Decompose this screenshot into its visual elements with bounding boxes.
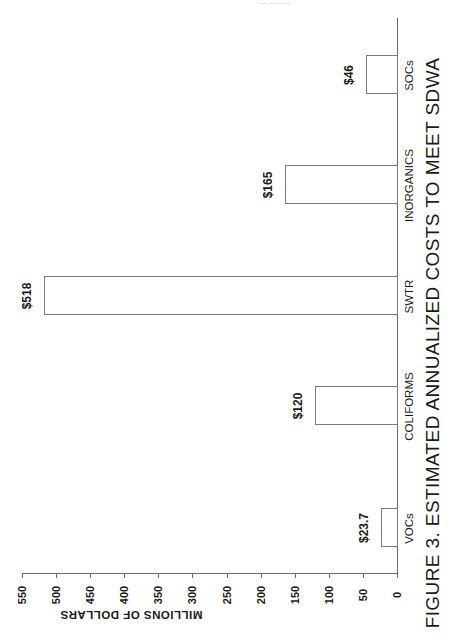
bar-vocs [381,508,398,547]
value-axis-tick-label: 150 [289,580,301,610]
category-label: COLIFORMS [403,361,416,451]
value-axis-tick [295,573,296,578]
value-axis-tick [56,573,57,578]
value-axis-tick-label: 0 [391,580,403,610]
bar-inorganics [285,165,399,204]
value-axis-tick-label: 550 [16,580,28,610]
value-axis-tick [397,573,398,578]
bar-value-label: $518 [20,271,34,321]
bar-value-label: $120 [291,381,305,431]
value-axis-tick [90,573,91,578]
value-axis-tick [192,573,193,578]
bar-coliforms [315,386,398,425]
value-axis-line [22,573,398,574]
value-axis-tick-label: 250 [221,580,233,610]
value-axis-tick [158,573,159,578]
value-axis-tick-label: 200 [255,580,267,610]
value-axis-tick [261,573,262,578]
value-axis-tick [329,573,330,578]
category-label: SOCs [403,30,416,120]
value-axis-tick [22,573,23,578]
bar-socs [366,55,398,94]
bar-value-label: $165 [261,160,275,210]
category-label: VOCs [403,483,416,573]
value-axis-tick [363,573,364,578]
value-axis-tick [227,573,228,578]
value-axis-label: MILLIONS OF DOLLARS [60,609,202,621]
value-axis-tick-label: 450 [84,580,96,610]
bar-value-label: $46 [342,50,356,100]
category-label: INORGANICS [403,140,416,230]
bar-value-label: $23.7 [357,503,371,553]
value-axis-tick [124,573,125,578]
bar-swtr [44,276,398,315]
value-axis-tick-label: 100 [323,580,335,610]
value-axis-tick-label: 500 [50,580,62,610]
category-label: SWTR [403,251,416,341]
value-axis-tick-label: 400 [118,580,130,610]
value-axis-tick-label: 300 [186,580,198,610]
value-axis-tick-label: 350 [152,580,164,610]
chart-title: FIGURE 3. ESTIMATED ANNUALIZED COSTS TO … [422,33,444,642]
faint-header-text: — — — [258,0,290,8]
value-axis-tick-label: 50 [357,580,369,610]
